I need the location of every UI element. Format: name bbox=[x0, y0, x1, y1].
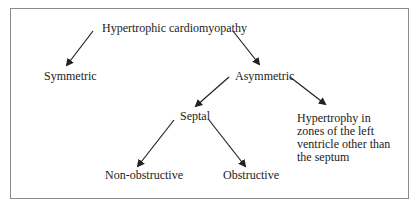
node-symmetric: Symmetric bbox=[44, 70, 97, 83]
node-obstructive: Obstructive bbox=[223, 169, 279, 182]
arrow-septal-nonobstructive bbox=[138, 120, 174, 166]
arrow-root-asymmetric bbox=[233, 31, 259, 64]
node-septal: Septal bbox=[180, 110, 210, 123]
node-root: Hypertrophic cardiomyopathy bbox=[102, 22, 247, 35]
node-other: Hypertrophy in zones of the left ventric… bbox=[297, 112, 397, 164]
arrow-septal-obstructive bbox=[209, 120, 245, 166]
arrow-asymmetric-septal bbox=[196, 77, 229, 106]
arrow-root-symmetric bbox=[67, 31, 93, 65]
arrow-asymmetric-other bbox=[290, 77, 325, 104]
node-nonobstructive: Non-obstructive bbox=[105, 169, 183, 182]
node-asymmetric: Asymmetric bbox=[235, 70, 294, 83]
